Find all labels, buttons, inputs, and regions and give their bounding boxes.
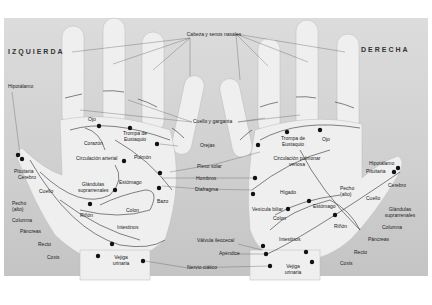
right-hand-title: DERECHA (361, 46, 410, 53)
left-label-cuello: Cuello (39, 189, 53, 195)
label-hombros: Hombros (196, 176, 216, 182)
label-apendice: Apéndice (219, 251, 240, 257)
left-label-pancreas: Páncreas (20, 229, 41, 235)
right-label-higado: Hígado (280, 190, 296, 196)
label-cuello-garganta: Cuello y garganta (193, 119, 232, 125)
right-label-recto: Recto (354, 250, 367, 256)
left-label-pulmon: Pulmón (134, 155, 151, 161)
right-label-circulacion: Circulación pulmonar venosa (272, 156, 322, 167)
label-valvula-ileocecal: Válvula ileocecal (197, 238, 234, 244)
right-label-vesicula: Vesícula biliar (252, 207, 283, 213)
right-label-cerebro: Cerebro (388, 183, 406, 189)
right-label-glandulas: Glándulas suprarrenales (384, 207, 416, 218)
label-diafragma: Diafragma (195, 187, 218, 193)
left-label-cerebro: Cerebro (18, 175, 36, 181)
left-label-recto: Recto (38, 242, 51, 248)
right-label-intestinos: Intestinos (279, 237, 300, 243)
label-cabeza-senos: Cabeza y senos nasales (186, 32, 242, 38)
right-label-vejiga: Vejiga urinaria (282, 264, 304, 275)
left-label-colon: Colon (126, 208, 139, 214)
left-label-bazo: Bazo (157, 199, 168, 205)
right-label-trompa: Trompa de Eustaquio (278, 136, 308, 147)
right-label-pancreas: Páncreas (368, 237, 389, 243)
right-label-cuello: Cuello (366, 196, 380, 202)
right-label-columna: Columna (382, 225, 402, 231)
left-label-ojo: Ojo (88, 117, 96, 123)
left-label-circulacion: Circulación arterial (76, 156, 117, 162)
left-label-vejiga: Vejiga urinaria (110, 255, 132, 266)
right-label-pecho: Pecho (alto) (340, 186, 356, 197)
left-label-coxis: Coxis (47, 255, 60, 261)
left-label-pecho: Pecho (alto) (12, 201, 26, 212)
label-plexo-solar: Plexo solar (197, 164, 222, 170)
right-label-hipotalamo: Hipotálamo (369, 161, 394, 167)
right-label-rinon: Riñón (334, 224, 347, 230)
right-label-pituitaria: Pituitaria (366, 169, 385, 175)
left-label-estomago: Estómago (119, 180, 142, 186)
right-label-ojo: Ojo (322, 137, 330, 143)
left-label-columna: Columna (12, 218, 32, 224)
left-label-corazon: Corazón (84, 141, 103, 147)
left-label-glandulas: Glándulas suprarrenales (78, 182, 108, 193)
label-orejas: Orejas (200, 143, 215, 149)
left-label-trompa: Trompa de Eustaquio (120, 131, 150, 142)
left-label-rinon: Riñón (80, 213, 93, 219)
left-hand-title: IZQUIERDA (8, 48, 65, 55)
right-label-colon: Colon (273, 216, 286, 222)
left-label-hipotalamo: Hipotálamo (8, 84, 33, 90)
right-label-coxis: Coxis (340, 261, 353, 267)
right-label-estomago: Estómago (313, 204, 336, 210)
left-label-intestinos: Intestinos (117, 225, 138, 231)
label-nervio-ciatico: Nervio ciático (187, 265, 217, 271)
